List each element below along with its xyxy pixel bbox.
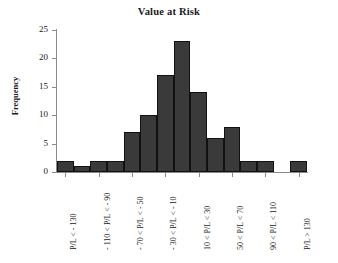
histogram-bar bbox=[257, 161, 274, 172]
x-tick-mark bbox=[232, 173, 233, 177]
x-tick-label-text: 90 < P/L < 110 bbox=[269, 202, 279, 250]
y-tick-mark bbox=[52, 87, 56, 88]
x-axis-line bbox=[56, 172, 308, 173]
histogram-bar bbox=[190, 92, 207, 172]
x-tick-label: - 70 < P/L < - 50 bbox=[126, 180, 138, 252]
x-tick-label: 50 < P/L < 70 bbox=[226, 180, 238, 252]
histogram-bar bbox=[74, 166, 91, 172]
y-tick-mark bbox=[52, 144, 56, 145]
histogram-bar bbox=[207, 138, 224, 172]
histogram-bar bbox=[174, 41, 191, 172]
x-tick-label: P/L < - 130 bbox=[59, 180, 71, 252]
y-tick-label: 5 bbox=[18, 139, 48, 148]
x-tick-label: P/L > 130 bbox=[293, 180, 305, 252]
y-tick-label: 10 bbox=[18, 110, 48, 119]
x-tick-label-text: - 110 < P/L < - 90 bbox=[103, 193, 113, 250]
y-tick-label: 0 bbox=[18, 167, 48, 176]
y-tick-label: 20 bbox=[18, 53, 48, 62]
x-tick-mark bbox=[99, 173, 100, 177]
y-tick-mark bbox=[52, 58, 56, 59]
x-tick-mark bbox=[65, 173, 66, 177]
plot-area bbox=[57, 30, 307, 172]
value-at-risk-histogram: Value at Risk Frequency 0510152025 P/L <… bbox=[0, 0, 338, 263]
histogram-bar bbox=[57, 161, 74, 172]
histogram-bar bbox=[157, 75, 174, 172]
x-tick-mark bbox=[299, 173, 300, 177]
histogram-bar bbox=[290, 161, 307, 172]
y-tick-label: 15 bbox=[18, 82, 48, 91]
histogram-bar bbox=[107, 161, 124, 172]
x-tick-mark bbox=[165, 173, 166, 177]
x-tick-label-text: - 30 < P/L < - 10 bbox=[169, 196, 179, 250]
x-tick-label: 90 < P/L < 110 bbox=[259, 180, 271, 252]
histogram-bar bbox=[240, 161, 257, 172]
histogram-bar bbox=[124, 132, 141, 172]
x-tick-label-text: P/L < - 130 bbox=[69, 214, 79, 250]
y-tick-mark bbox=[52, 115, 56, 116]
x-tick-mark bbox=[265, 173, 266, 177]
x-tick-label-text: 50 < P/L < 70 bbox=[236, 206, 246, 250]
histogram-bar bbox=[140, 115, 157, 172]
histogram-bar bbox=[90, 161, 107, 172]
histogram-bar bbox=[224, 127, 241, 172]
chart-title: Value at Risk bbox=[0, 6, 338, 17]
x-tick-label-text: - 70 < P/L < - 50 bbox=[136, 196, 146, 250]
x-tick-label-text: P/L > 130 bbox=[303, 218, 313, 250]
y-tick-mark bbox=[52, 30, 56, 31]
y-tick-label: 25 bbox=[18, 25, 48, 34]
x-tick-mark bbox=[199, 173, 200, 177]
x-tick-label-text: 10 < P/L < 30 bbox=[203, 206, 213, 250]
y-axis-title: Frequency bbox=[8, 56, 22, 136]
x-tick-label: 10 < P/L < 30 bbox=[193, 180, 205, 252]
figure-caption bbox=[6, 249, 332, 261]
y-tick-mark bbox=[52, 172, 56, 173]
x-tick-label: - 30 < P/L < - 10 bbox=[159, 180, 171, 252]
x-tick-label: - 110 < P/L < - 90 bbox=[93, 180, 105, 252]
x-tick-mark bbox=[132, 173, 133, 177]
